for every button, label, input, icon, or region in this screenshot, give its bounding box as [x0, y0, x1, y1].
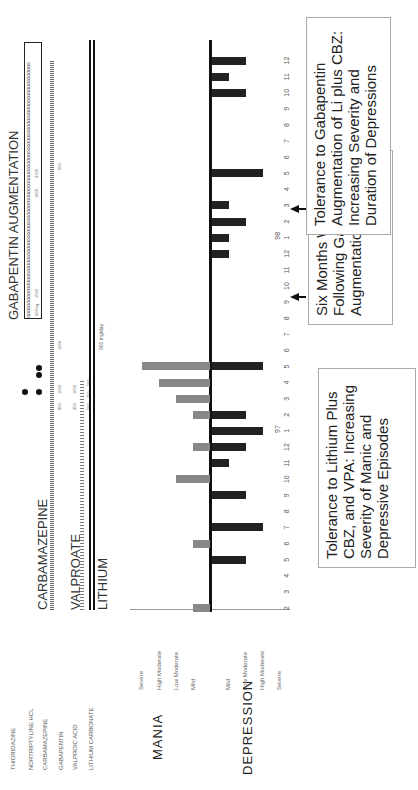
month-tick-label: 2 [283, 602, 290, 614]
month-tick-label: 4 [283, 183, 290, 195]
mania-level-low-moderate: Low Moderate [173, 652, 179, 690]
drug-label-lithium: LITHIUM CARBONATE [88, 707, 94, 770]
depression-bar [212, 459, 229, 467]
depression-bar [212, 524, 263, 532]
mania-bar [193, 604, 210, 612]
year-label: 98 [274, 232, 281, 240]
depression-bar [212, 491, 246, 499]
arrow-stem [298, 208, 306, 210]
arrow-stem [298, 296, 306, 298]
mania-bar [193, 540, 210, 548]
drug-label-gabapentin: GABAPENTIN [58, 731, 64, 770]
month-tick-label: 1 [283, 425, 290, 437]
month-tick-label: 7 [283, 135, 290, 147]
depression-bar [212, 427, 263, 435]
month-tick-label: 12 [283, 441, 290, 453]
month-tick-label: 10 [283, 473, 290, 485]
depression-bar [212, 411, 246, 419]
month-tick-label: 6 [283, 538, 290, 550]
drug-label-nortriptyline: NORTRIPTYLINE HCL [28, 708, 34, 770]
month-tick-label: 8 [283, 119, 290, 131]
drug-label-carbamazepine: CARBAMAZEPINE [42, 719, 48, 770]
month-tick-label: 1 [283, 232, 290, 244]
depression-bar [212, 443, 246, 451]
depression-bar [212, 89, 246, 97]
gabapentin-dose-3: 2100 [34, 169, 39, 178]
label-carbamazepine: CARBAMAZEPINE [35, 499, 50, 610]
carbamazepine-bar [50, 60, 54, 610]
month-tick-label: 3 [283, 393, 290, 405]
drug-label-valproic-acid: VALPROIC ACID [72, 724, 78, 770]
depression-bar [212, 218, 246, 226]
depression-bar [212, 234, 229, 242]
month-tick-label: 11 [283, 264, 290, 276]
life-chart: THIORIDAZINE NORTRIPTYLINE HCL CARBAMAZE… [0, 0, 418, 790]
cbz-dose-3: 1000 [57, 341, 62, 350]
mania-bar [193, 411, 210, 419]
nortriptyline-dot [22, 389, 28, 395]
month-tick-label: 2 [283, 216, 290, 228]
month-tick-label: 9 [283, 103, 290, 115]
month-tick-label: 7 [283, 328, 290, 340]
depression-bar [212, 73, 229, 81]
mania-bar [193, 443, 210, 451]
mania-bar [142, 363, 210, 371]
drug-label-thioridazine: THIORIDAZINE [10, 728, 16, 770]
month-tick-label: 12 [283, 248, 290, 260]
month-tick-label: 5 [283, 167, 290, 179]
month-tick-label: 9 [283, 296, 290, 308]
thioridazine-dot [36, 389, 42, 395]
month-tick-label: 2 [283, 409, 290, 421]
gabapentin-dose-start: 600mg [34, 304, 39, 316]
depression-axis-title: DEPRESSION [240, 680, 255, 775]
mania-level-high-moderate: High Moderate [156, 651, 162, 690]
mania-level-severe: Severe [138, 671, 144, 690]
gabapentin-dose-2: 1800 [34, 189, 39, 198]
mania-bar [176, 395, 210, 403]
thioridazine-dot [36, 372, 42, 378]
mania-bar [159, 379, 210, 387]
month-tick-label: 3 [283, 200, 290, 212]
month-tick-label: 11 [283, 71, 290, 83]
mania-level-mild: Mild [190, 679, 196, 690]
month-tick-label: 10 [283, 87, 290, 99]
cbz-dose-2: 1000 [57, 385, 62, 394]
month-tick-label: 5 [283, 361, 290, 373]
lithium-dose: 900 mg/day [98, 324, 104, 350]
month-tick-label: 7 [283, 522, 290, 534]
depression-bar [212, 556, 246, 564]
cbz-dose-1: 800 [57, 403, 62, 410]
vpa-dose-2: 1000 [72, 385, 77, 394]
depression-bar [212, 363, 263, 371]
depression-bar [212, 57, 246, 65]
valproate-bar [80, 380, 84, 610]
cbz-dose-4: 600 [57, 163, 62, 170]
gabapentin-bar: oooooooooooooooooooooooooooooooooooooooo… [24, 42, 42, 319]
vpa-dose-1: 250 [72, 403, 77, 410]
annotation-tolerance-gabapentin: Tolerance to Gabapentin Augmentation of … [306, 17, 391, 235]
depression-level-mild: Mild [225, 679, 231, 690]
month-tick-label: 6 [283, 151, 290, 163]
month-tick-label: 11 [283, 457, 290, 469]
month-tick-label: 4 [283, 377, 290, 389]
mania-bar [176, 475, 210, 483]
depression-level-high-moderate: High Moderate [259, 651, 265, 690]
gabapentin-dose-1: 1500 [34, 289, 39, 298]
depression-level-low-moderate: Low Moderate [242, 652, 248, 690]
month-tick-label: 12 [283, 55, 290, 67]
month-tick-label: 8 [283, 312, 290, 324]
label-gabapentin-augmentation: GABAPENTIN AUGMENTATION [6, 131, 21, 320]
month-tick-label: 10 [283, 280, 290, 292]
month-tick-label: 3 [283, 586, 290, 598]
lithium-bar [89, 40, 95, 610]
year-label: 97 [274, 425, 281, 433]
depression-bar [212, 202, 229, 210]
month-tick-label: 9 [283, 489, 290, 501]
depression-bar [212, 250, 229, 258]
month-tick-label: 4 [283, 570, 290, 582]
month-tick-label: 8 [283, 505, 290, 517]
depression-bar [212, 169, 263, 177]
annotation-tolerance-li-cbz-vpa: Tolerance to Lithium Plus CBZ, and VPA: … [318, 368, 416, 568]
label-lithium: LITHIUM [95, 558, 110, 610]
mania-axis-title: MANIA [150, 714, 165, 760]
